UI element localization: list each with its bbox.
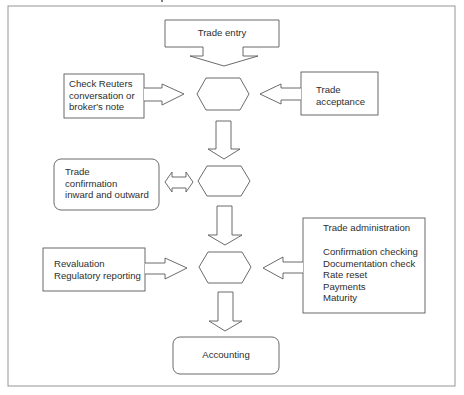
trade-admin-item: Payments	[323, 281, 418, 293]
cropped-caption-mark	[161, 0, 163, 2]
revaluation-line-2: Regulatory reporting	[54, 270, 141, 282]
trade-acceptance-label: Trade acceptance	[316, 84, 365, 107]
trade-confirmation-line-3: inward and outward	[65, 189, 149, 201]
revaluation-label: Revaluation Regulatory reporting	[54, 258, 141, 281]
trade-entry-label: Trade entry	[165, 27, 279, 39]
trade-confirmation-label: Trade confirmation inward and outward	[65, 166, 149, 201]
check-reuters-label: Check Reuters conversation or broker's n…	[69, 78, 135, 113]
trade-acceptance-line-2: acceptance	[316, 96, 365, 108]
revaluation-line-1: Revaluation	[54, 258, 141, 270]
trade-administration-title: Trade administration	[323, 222, 410, 234]
process-hub-2	[198, 166, 250, 196]
check-reuters-line-1: Check Reuters	[69, 78, 135, 90]
accounting-label: Accounting	[173, 349, 279, 361]
trade-administration-list: Confirmation checking Documentation chec…	[323, 246, 418, 304]
trade-confirmation-line-2: confirmation	[65, 178, 149, 190]
trade-admin-item: Confirmation checking	[323, 246, 418, 258]
trade-acceptance-line-1: Trade	[316, 84, 365, 96]
trade-admin-item: Documentation check	[323, 258, 418, 270]
trade-admin-item: Maturity	[323, 292, 418, 304]
trade-confirmation-line-1: Trade	[65, 166, 149, 178]
check-reuters-line-2: conversation or	[69, 90, 135, 102]
trade-admin-item: Rate reset	[323, 269, 418, 281]
process-hub-3	[199, 252, 251, 283]
process-hub-1	[197, 78, 249, 110]
check-reuters-line-3: broker's note	[69, 101, 135, 113]
